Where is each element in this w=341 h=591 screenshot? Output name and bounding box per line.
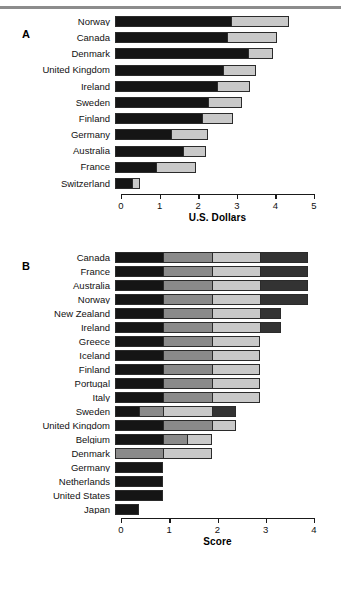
category-label: United Kingdom xyxy=(0,421,115,431)
axis-tick xyxy=(121,194,122,199)
category-label: Canada xyxy=(0,33,115,43)
bar-segment xyxy=(163,350,211,361)
bar-track xyxy=(115,113,308,124)
stacked-bar xyxy=(115,32,308,43)
bar-segment xyxy=(115,32,227,43)
bar-track xyxy=(115,462,308,473)
axis-tick-label: 0 xyxy=(118,524,123,535)
chart-row: Greece xyxy=(0,336,341,347)
bar-track xyxy=(115,504,308,515)
bar-segment xyxy=(183,146,206,157)
category-label: Iceland xyxy=(0,351,115,361)
stacked-bar xyxy=(115,504,308,515)
chart-row: Italy xyxy=(0,392,341,403)
bar-segment xyxy=(115,476,163,487)
axis-tick xyxy=(314,518,315,523)
stacked-bar xyxy=(115,378,308,389)
bar-segment xyxy=(227,32,277,43)
chart-row: Sweden xyxy=(0,406,341,417)
category-label: Finland xyxy=(0,114,115,124)
bar-segment xyxy=(163,336,211,347)
bar-track xyxy=(115,280,308,291)
category-label: Belgium xyxy=(0,435,115,445)
category-label: Netherlands xyxy=(0,477,115,487)
axis-tick-label: 4 xyxy=(273,200,278,211)
category-label: Denmark xyxy=(0,49,115,59)
chart-row: Australia xyxy=(0,280,341,291)
bar-track xyxy=(115,392,308,403)
category-label: Australia xyxy=(0,281,115,291)
chart-row: Sweden xyxy=(0,97,341,108)
category-label: Finland xyxy=(0,365,115,375)
chart-row: Switzerland xyxy=(0,178,341,189)
category-label: United Kingdom xyxy=(0,65,115,75)
bar-segment xyxy=(212,280,260,291)
bar-segment xyxy=(115,350,163,361)
bar-segment xyxy=(208,97,243,108)
bar-track xyxy=(115,434,308,445)
stacked-bar xyxy=(115,294,308,305)
bar-segment xyxy=(202,113,233,124)
stacked-bar xyxy=(115,322,308,333)
bar-segment xyxy=(260,322,282,333)
category-label: Portugal xyxy=(0,379,115,389)
bar-segment xyxy=(223,65,256,76)
bar-segment xyxy=(212,336,260,347)
stacked-bar xyxy=(115,364,308,375)
bar-segment xyxy=(187,434,211,445)
stacked-bar xyxy=(115,406,308,417)
bar-track xyxy=(115,476,308,487)
stacked-bar xyxy=(115,350,308,361)
bar-segment xyxy=(212,378,260,389)
axis-tick-label: 4 xyxy=(311,524,316,535)
figure-container: A NorwayCanadaDenmarkUnited KingdomIrela… xyxy=(0,0,341,591)
stacked-bar xyxy=(115,16,308,27)
bar-segment xyxy=(115,97,208,108)
bar-segment xyxy=(115,178,132,189)
category-label: Germany xyxy=(0,463,115,473)
stacked-bar xyxy=(115,178,308,189)
category-label: Norway xyxy=(0,17,115,27)
bar-segment xyxy=(163,378,211,389)
category-label: Greece xyxy=(0,337,115,347)
bar-segment xyxy=(212,406,236,417)
bar-track xyxy=(115,420,308,431)
bar-track xyxy=(115,378,308,389)
bar-segment xyxy=(115,294,163,305)
chart-a: NorwayCanadaDenmarkUnited KingdomIreland… xyxy=(0,16,341,216)
axis-tick-label: 3 xyxy=(234,200,239,211)
category-label: Japan xyxy=(0,505,115,515)
bar-segment xyxy=(163,294,211,305)
stacked-bar xyxy=(115,266,308,277)
axis-tick xyxy=(218,518,219,523)
bar-segment xyxy=(212,364,260,375)
bar-segment xyxy=(163,308,211,319)
stacked-bar xyxy=(115,162,308,173)
stacked-bar xyxy=(115,420,308,431)
bar-track xyxy=(115,97,308,108)
bar-segment xyxy=(163,392,211,403)
bar-segment xyxy=(212,266,260,277)
bar-segment xyxy=(115,162,156,173)
axis-tick-label: 2 xyxy=(215,524,220,535)
bar-segment xyxy=(212,392,260,403)
chart-b-axis: 01234Score xyxy=(121,518,316,540)
bar-segment xyxy=(260,266,308,277)
bar-segment xyxy=(163,252,211,263)
bar-segment xyxy=(163,406,211,417)
panel-a: A NorwayCanadaDenmarkUnited KingdomIrela… xyxy=(0,16,341,216)
stacked-bar xyxy=(115,252,308,263)
axis-tick xyxy=(314,194,315,199)
category-label: Sweden xyxy=(0,98,115,108)
bar-segment xyxy=(115,146,183,157)
axis-line xyxy=(121,194,315,195)
bar-segment xyxy=(212,252,260,263)
bar-track xyxy=(115,448,308,459)
bar-segment xyxy=(163,420,211,431)
chart-row: Ireland xyxy=(0,81,341,92)
bar-track xyxy=(115,364,308,375)
bar-segment xyxy=(115,308,163,319)
chart-row: Belgium xyxy=(0,434,341,445)
bar-segment xyxy=(115,434,163,445)
bar-segment xyxy=(115,252,163,263)
